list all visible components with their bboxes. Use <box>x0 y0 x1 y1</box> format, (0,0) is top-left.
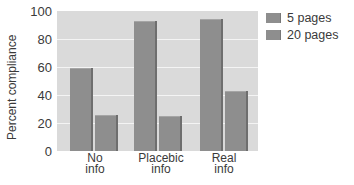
y-tick: 0 <box>22 145 52 158</box>
y-axis-label: Percent compliance <box>5 35 19 140</box>
legend-item-20-pages: 20 pages <box>266 26 338 43</box>
x-category-no-info: No info <box>60 153 130 175</box>
x-category-line: info <box>60 164 130 175</box>
legend-item-5-pages: 5 pages <box>266 9 338 26</box>
y-tick: 40 <box>22 89 52 102</box>
legend-label: 20 pages <box>287 28 338 42</box>
x-category-real-info: Real info <box>189 153 259 175</box>
legend-swatch-icon <box>266 30 281 40</box>
x-category-line: info <box>126 164 196 175</box>
bar-real-info-20-pages <box>225 91 248 151</box>
y-tick: 100 <box>22 5 52 18</box>
y-tick: 60 <box>22 61 52 74</box>
x-category-line: info <box>189 164 259 175</box>
bar-real-info-5-pages <box>200 19 223 151</box>
legend-label: 5 pages <box>287 11 331 25</box>
bar-no-info-5-pages <box>70 68 93 151</box>
y-tick: 20 <box>22 117 52 130</box>
legend-swatch-icon <box>266 13 281 23</box>
bar-no-info-20-pages <box>95 115 118 151</box>
bar-placebic-info-5-pages <box>134 21 157 151</box>
plot-area <box>57 11 258 151</box>
x-category-placebic-info: Placebic info <box>126 153 196 175</box>
bar-placebic-info-20-pages <box>159 116 182 151</box>
y-tick: 80 <box>22 33 52 46</box>
gridline-80 <box>57 39 258 40</box>
legend: 5 pages 20 pages <box>266 9 338 43</box>
